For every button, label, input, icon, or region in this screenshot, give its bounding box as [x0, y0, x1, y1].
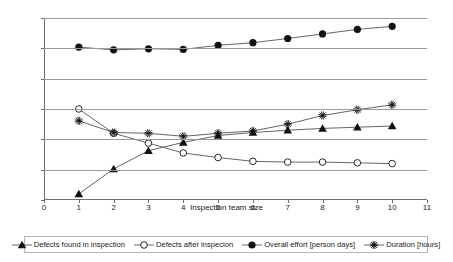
series-1 — [76, 106, 396, 167]
chart-figure: 20040060080010001200140001234567891011 I… — [0, 0, 453, 262]
y-tick-mark-600 — [41, 139, 44, 140]
legend-item[interactable]: Duration [hours] — [364, 240, 440, 250]
legend-item-label: Defects after inspecion — [156, 240, 233, 249]
plot-area: 20040060080010001200140001234567891011 — [44, 18, 427, 200]
y-tick-mark-1400 — [41, 18, 44, 19]
y-tick-mark-400 — [41, 170, 44, 171]
filled-circle-marker-icon — [242, 240, 262, 250]
gridline-y-800 — [44, 109, 427, 110]
gridline-y-1000 — [44, 79, 427, 80]
x-axis-title: Inspection team size — [0, 203, 453, 212]
open-circle-marker-icon — [134, 240, 154, 250]
gridline-y-1200 — [44, 48, 427, 49]
y-tick-mark-1000 — [41, 79, 44, 80]
asterisk-marker-icon — [364, 240, 384, 250]
legend-item-label: Duration [hours] — [386, 240, 440, 249]
gridline-y-1400 — [44, 18, 427, 19]
gridline-y-400 — [44, 170, 427, 171]
chart-legend: Defects found in inspectionDefects after… — [24, 236, 428, 253]
gridline-y-600 — [44, 139, 427, 140]
legend-item-label: Defects found in inspection — [34, 240, 125, 249]
legend-item-label: Overall effort [person days] — [264, 240, 355, 249]
y-tick-mark-800 — [41, 109, 44, 110]
y-tick-mark-1200 — [41, 48, 44, 49]
legend-item[interactable]: Defects found in inspection — [12, 240, 125, 250]
filled-triangle-marker-icon — [12, 240, 32, 250]
legend-item[interactable]: Overall effort [person days] — [242, 240, 355, 250]
legend-item[interactable]: Defects after inspecion — [134, 240, 233, 250]
